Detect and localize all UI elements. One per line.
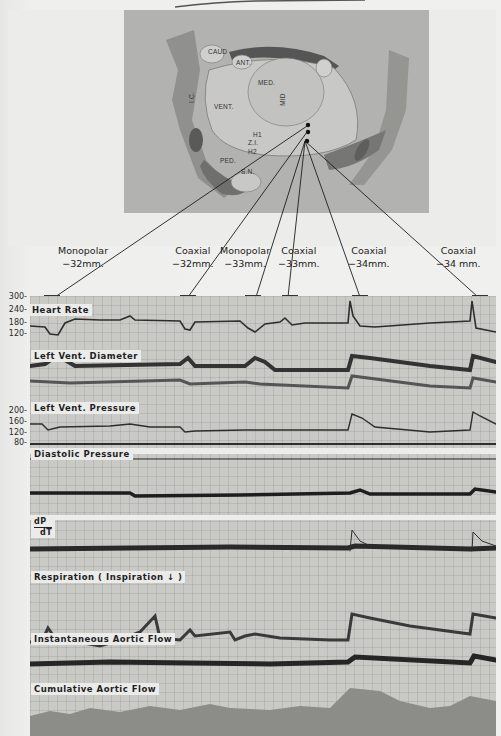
electrode-label-2: Coaxial −32mm. [172, 244, 214, 270]
brain-label-h2: H2 [248, 148, 257, 155]
brain-outline-drawing [124, 10, 429, 213]
hr-tick-300: 300- [0, 292, 27, 301]
electrode-label-5: Coaxial −34mm. [348, 244, 390, 270]
electrode-type: Coaxial [278, 244, 320, 257]
trace-label-respiration: Respiration ( Inspiration ↓ ) [31, 571, 185, 583]
lvp-tick-80: 80- [0, 438, 27, 447]
electrode-type: Coaxial [348, 244, 390, 257]
lvp-tick-120: 120- [0, 428, 27, 437]
lvp-tick-160: 160- [0, 417, 27, 426]
electrode-label-3: Monopolar −33mm. [220, 244, 270, 270]
trace-label-heart-rate: Heart Rate [29, 304, 92, 316]
brain-label-ic: I.C. [188, 92, 195, 103]
trace-label-dpdt: dP dT [31, 517, 55, 538]
electrode-type: Coaxial [436, 244, 481, 257]
trace-label-cumulative-aortic-flow: Cumulative Aortic Flow [31, 683, 159, 695]
electrode-type: Coaxial [172, 244, 214, 257]
lvp-tick-200: 200- [0, 406, 27, 415]
electrode-depth: −32mm. [172, 257, 214, 270]
trace-waveforms [30, 296, 496, 736]
electrode-label-4: Coaxial −33mm. [278, 244, 320, 270]
electrode-type: Monopolar [220, 244, 270, 257]
brain-section-diagram [124, 10, 429, 213]
trace-label-lv-pressure: Left Vent. Pressure [31, 402, 139, 414]
electrode-label-6: Coaxial −34 mm. [436, 244, 481, 270]
brain-label-ant: ANT. [236, 59, 251, 66]
electrode-depth: −34 mm. [436, 257, 481, 270]
electrode-depth: −33mm. [278, 257, 320, 270]
brain-label-ped: PED. [220, 157, 236, 164]
brain-label-h1: H1 [253, 131, 262, 138]
physiological-recording-chart [30, 296, 496, 736]
trace-label-diastolic-pressure: Diastolic Pressure [31, 448, 133, 460]
brain-label-vent: VENT. [214, 103, 233, 110]
brain-label-zi: Z.I. [248, 139, 258, 146]
hr-tick-180: 180- [0, 318, 27, 327]
dpdt-numerator: dP [34, 517, 52, 527]
hr-tick-120: 120- [0, 329, 27, 338]
hr-tick-240: 240- [0, 305, 27, 314]
brain-label-mid: MID [279, 93, 286, 106]
electrode-depth: −32mm. [58, 257, 108, 270]
electrode-depth: −34mm. [348, 257, 390, 270]
brain-label-med: MED. [258, 79, 275, 86]
electrode-label-1: Monopolar −32mm. [58, 244, 108, 270]
trace-label-lv-diameter: Left Vent. Diameter [31, 350, 141, 362]
brain-label-sn: S.N. [241, 168, 254, 175]
top-pen-stroke [175, 0, 365, 8]
dpdt-denominator: dT [34, 527, 52, 538]
brain-label-caud: CAUD [208, 48, 227, 55]
electrode-depth: −33mm. [220, 257, 270, 270]
trace-label-instantaneous-aortic-flow: Instantaneous Aortic Flow [31, 633, 175, 645]
electrode-type: Monopolar [58, 244, 108, 257]
